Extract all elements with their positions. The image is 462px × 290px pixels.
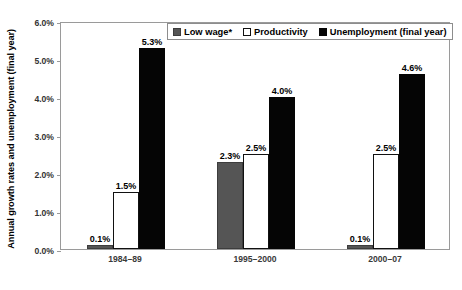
bar[interactable]: 0.1% <box>87 245 113 249</box>
bar-value-label: 0.1% <box>350 234 371 244</box>
bar[interactable]: 1.5% <box>113 192 139 249</box>
chart-legend: Low wage*ProductivityUnemployment (final… <box>167 23 453 40</box>
y-tick-mark <box>57 251 61 252</box>
bar-group: 2.3%2.5%4.0% <box>217 23 295 249</box>
y-tick-label: 2.0% <box>34 170 54 180</box>
bar-value-label: 1.5% <box>116 181 137 191</box>
bar[interactable]: 5.3% <box>139 48 165 249</box>
bar[interactable]: 0.1% <box>347 245 373 249</box>
bar-value-label: 2.5% <box>376 143 397 153</box>
legend-swatch-icon <box>173 28 181 36</box>
bar-group: 0.1%2.5%4.6% <box>347 23 425 249</box>
legend-item[interactable]: Low wage* <box>173 27 232 37</box>
legend-label: Unemployment (final year) <box>330 27 447 37</box>
x-axis-category-label: 2000–07 <box>320 254 450 264</box>
legend-swatch-icon <box>243 28 251 36</box>
bar[interactable]: 2.5% <box>373 154 399 249</box>
x-axis-category-label: 1984–89 <box>60 254 190 264</box>
legend-swatch-icon <box>319 28 327 36</box>
y-tick-label: 1.0% <box>34 208 54 218</box>
x-axis-category-label: 1995–2000 <box>190 254 320 264</box>
legend-item[interactable]: Unemployment (final year) <box>319 27 447 37</box>
bar-value-label: 4.6% <box>402 63 423 73</box>
bar-value-label: 0.1% <box>90 234 111 244</box>
bar[interactable]: 2.3% <box>217 162 243 249</box>
y-tick-label: 3.0% <box>34 132 54 142</box>
legend-label: Low wage* <box>184 27 232 37</box>
y-tick-label: 0.0% <box>34 246 54 256</box>
bar-value-label: 5.3% <box>142 37 163 47</box>
legend-label: Productivity <box>254 27 308 37</box>
y-axis-title: Annual growth rates and unemployment (fi… <box>3 10 19 268</box>
legend-item[interactable]: Productivity <box>243 27 308 37</box>
bar[interactable]: 2.5% <box>243 154 269 249</box>
y-tick-label: 5.0% <box>34 56 54 66</box>
bar-chart: Annual growth rates and unemployment (fi… <box>0 0 462 290</box>
plot-area: 0.0%1.0%2.0%3.0%4.0%5.0%6.0% 0.1%1.5%5.3… <box>60 22 450 250</box>
y-tick-label: 4.0% <box>34 94 54 104</box>
bar[interactable]: 4.6% <box>399 74 425 249</box>
bar-group: 0.1%1.5%5.3% <box>87 23 165 249</box>
y-tick-label: 6.0% <box>34 18 54 28</box>
bar-value-label: 4.0% <box>272 86 293 96</box>
bar-value-label: 2.3% <box>220 151 241 161</box>
bar-value-label: 2.5% <box>246 143 267 153</box>
bars-layer: 0.1%1.5%5.3%2.3%2.5%4.0%0.1%2.5%4.6% <box>61 23 449 249</box>
bar[interactable]: 4.0% <box>269 97 295 249</box>
